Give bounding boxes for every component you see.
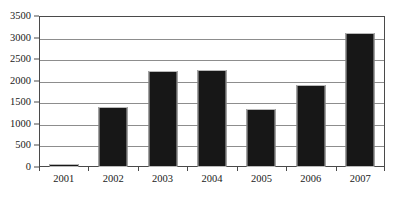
x-axis-tick-label: 2004 [202, 173, 223, 185]
x-axis-tick-label: 2002 [103, 173, 124, 185]
y-axis-tick-label: 1000 [10, 119, 31, 130]
bar[interactable] [197, 70, 226, 167]
bar-slot [336, 16, 385, 167]
x-axis-tick-label: 2005 [251, 173, 272, 185]
x-axis-tick-mark [286, 167, 287, 171]
x-axis-tick-mark [384, 167, 385, 171]
x-axis: 2001200220032004200520062007 [39, 173, 385, 189]
bar-slot [237, 16, 286, 167]
y-axis-tick-label: 500 [15, 140, 31, 151]
bar-slot [286, 16, 335, 167]
y-axis-tick-label: 3500 [10, 11, 31, 22]
x-axis-tick-label: 2006 [300, 173, 321, 185]
y-axis-tick-label: 2500 [10, 54, 31, 65]
y-axis-tick-label: 1500 [10, 97, 31, 108]
x-axis-tick-mark [336, 167, 337, 171]
x-axis-tick-label: 2001 [53, 173, 74, 185]
bar-slot [187, 16, 236, 167]
bar[interactable] [148, 71, 177, 167]
y-axis-tick-label: 0 [26, 162, 31, 173]
bar[interactable] [296, 85, 325, 167]
x-axis-tick-mark [39, 167, 40, 171]
bars-layer [39, 16, 385, 167]
bar-slot [88, 16, 137, 167]
x-axis-tick-mark [88, 167, 89, 171]
y-axis: 0500100015002000250030003500 [0, 0, 39, 202]
y-axis-tick-label: 3000 [10, 32, 31, 43]
bar[interactable] [346, 33, 375, 167]
x-axis-tick-mark [237, 167, 238, 171]
x-axis-tick-mark [187, 167, 188, 171]
y-axis-tick-label: 2000 [10, 75, 31, 86]
bar[interactable] [99, 107, 128, 167]
bar-slot [138, 16, 187, 167]
x-axis-tick-mark [138, 167, 139, 171]
bar[interactable] [247, 109, 276, 167]
x-axis-tick-label: 2007 [350, 173, 371, 185]
x-axis-tick-label: 2003 [152, 173, 173, 185]
x-axis-ticks [39, 167, 385, 172]
bar-slot [39, 16, 88, 167]
bar-chart: 0500100015002000250030003500 20012002200… [0, 0, 399, 202]
